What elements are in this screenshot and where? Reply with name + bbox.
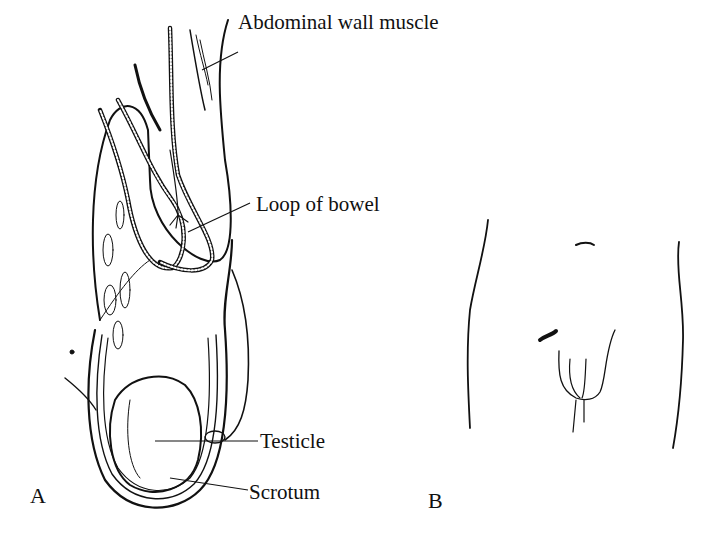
label-scrotum: Scrotum [249,482,320,503]
hernia-illustration [0,0,717,538]
panel-b-drawing [468,220,683,448]
panel-a-drawing [65,20,248,508]
panel-label-a: A [30,485,46,507]
label-loop-of-bowel: Loop of bowel [256,194,380,215]
label-testicle: Testicle [260,431,325,452]
panel-label-b: B [428,490,443,512]
label-abdominal-wall-muscle: Abdominal wall muscle [238,12,439,33]
